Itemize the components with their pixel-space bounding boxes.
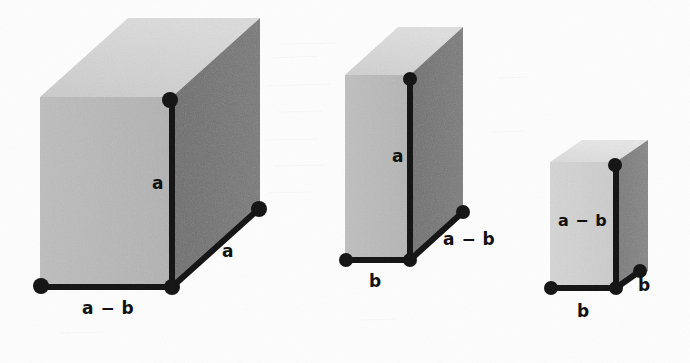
box-medium-depth-label: a − b [443, 231, 495, 248]
box-medium-width-label: b [369, 273, 382, 290]
box-small-depth-label: b [638, 277, 651, 294]
box-large-vertex-front-bottom-right [164, 279, 180, 295]
box-large-vertex-back-bottom [251, 201, 267, 217]
box-medium-front-face [345, 75, 410, 260]
box-large-height-label: a [152, 175, 164, 192]
box-medium-vertex-top [403, 72, 417, 86]
box-large-vertex-front-bottom-left [33, 278, 49, 294]
box-medium-height-label: a [392, 148, 404, 165]
box-small-vertex-front-bottom-left [544, 281, 558, 295]
box-large-depth-label: a [222, 243, 234, 260]
box-medium-vertex-front-bottom-left [339, 253, 353, 267]
box-large-width-label: a − b [82, 300, 134, 317]
box-medium-vertex-back-bottom [456, 205, 470, 219]
box-large-vertex-top [162, 92, 178, 108]
figure-canvas: a a − b a a b a − b a − b b b [0, 0, 690, 363]
box-small-vertex-front-bottom-right [609, 281, 623, 295]
box-medium-vertex-front-bottom-right [403, 253, 417, 267]
box-small-vertex-top [608, 158, 622, 172]
box-small-height-label: a − b [558, 213, 607, 229]
box-small-width-label: b [577, 303, 590, 320]
